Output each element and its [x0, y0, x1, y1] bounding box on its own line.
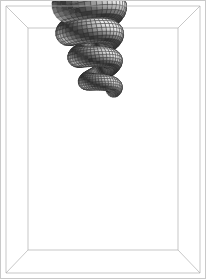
surface-mesh-quad: [110, 31, 114, 35]
surface-mesh-quad: [98, 31, 103, 35]
surface-mesh-quad: [72, 55, 75, 59]
surface-mesh-quad: [92, 28, 97, 32]
surface-mesh-quad: [102, 4, 107, 9]
surface-mesh-quad: [106, 86, 109, 88]
surface-mesh-quad: [120, 0, 123, 6]
surface-mesh-quad: [80, 53, 84, 57]
surface-mesh-quad: [87, 28, 93, 33]
surface-mesh-quad: [103, 83, 106, 85]
surface-mesh-quad: [103, 63, 106, 65]
surface-mesh-quad: [108, 86, 111, 88]
surface-mesh-quad: [99, 54, 103, 57]
surface-mesh-quad: [77, 54, 80, 58]
surface-mesh-quad: [103, 54, 107, 57]
surface-mesh-quad: [93, 32, 98, 36]
surface-mesh-quad: [73, 26, 78, 31]
surface-mesh-quad: [106, 27, 110, 31]
surface-mesh-quad: [96, 61, 100, 64]
surface-mesh-quad: [83, 80, 85, 83]
surface-mesh-quad: [85, 80, 88, 83]
surface-mesh-quad: [107, 4, 112, 9]
surface-mesh-quad: [112, 0, 117, 4]
surface-mesh-quad: [102, 51, 106, 54]
surface-mesh-quad: [58, 30, 60, 35]
surface-mesh-quad: [97, 5, 103, 10]
surface-mesh-quad: [102, 35, 106, 39]
surface-mesh-quad: [91, 52, 95, 55]
surface-mesh-quad: [104, 77, 108, 79]
surface-mesh-quad: [110, 54, 113, 57]
surface-mesh-quad: [97, 9, 102, 14]
surface-mesh-quad: [69, 27, 73, 32]
surface-mesh-quad: [87, 24, 92, 28]
surface-mesh-quad: [96, 0, 102, 5]
surface-mesh-quad: [100, 60, 103, 63]
surface-mesh-quad: [102, 27, 107, 31]
surface-mesh-quad: [105, 81, 108, 84]
surface-mesh-quad: [100, 86, 103, 88]
surface-mesh-quad: [96, 58, 100, 61]
surface-mesh-quad: [74, 54, 77, 58]
surface-mesh-quad: [99, 84, 102, 87]
surface-mesh-quad: [114, 27, 117, 31]
surface-mesh-quad: [110, 27, 114, 31]
surface-mesh-quad: [105, 79, 108, 81]
surface-mesh-quad: [103, 60, 106, 63]
surface-mesh-quad: [87, 79, 90, 82]
surface-mesh-quad: [93, 79, 96, 82]
surface-mesh-quad: [106, 54, 110, 57]
surface-mesh-quad: [98, 38, 102, 41]
surface-mesh-quad: [107, 0, 112, 4]
surface-mesh-quad: [97, 27, 102, 31]
surface-mesh-quad: [98, 35, 102, 39]
surface-mesh-quad: [106, 31, 110, 35]
surface-mesh-quad: [90, 0, 97, 6]
surface-mesh-quad: [61, 0, 67, 6]
surface-mesh-quad: [108, 83, 111, 86]
surface-mesh-quad: [95, 54, 99, 57]
surface-mesh-quad: [113, 54, 116, 57]
surface-mesh-quad: [60, 29, 63, 34]
surface-mesh-quad: [103, 57, 107, 60]
surface-mesh-quad: [111, 84, 114, 87]
seashell-surface-plot: [0, 0, 206, 279]
surface-mesh-quad: [94, 35, 98, 39]
surface-mesh-quad: [112, 4, 117, 9]
surface-mesh-quad: [102, 0, 108, 5]
surface-mesh-quad: [103, 88, 106, 90]
surface-mesh-quad: [100, 57, 104, 60]
surface-mesh-quad: [92, 10, 97, 15]
surface-mesh-quad: [107, 57, 110, 60]
surface-mesh-quad: [102, 31, 106, 35]
surface-mesh-quad: [116, 0, 120, 5]
surface-mesh-quad: [102, 9, 108, 14]
figure-root: [0, 0, 206, 279]
surface-mesh-quad: [106, 83, 109, 85]
surface-mesh-quad: [106, 88, 109, 90]
surface-mesh-quad: [87, 52, 91, 55]
surface-mesh-quad: [110, 57, 113, 60]
surface-mesh-quad: [96, 24, 101, 28]
surface-mesh-quad: [103, 86, 106, 88]
surface-mesh-quad: [62, 29, 65, 34]
